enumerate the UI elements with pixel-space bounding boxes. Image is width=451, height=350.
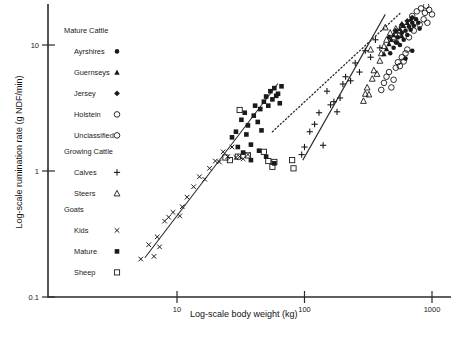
- marker-plus: [299, 151, 305, 157]
- marker-open-square: [291, 166, 296, 171]
- marker-open-circle: [386, 69, 392, 75]
- marker-cross: [152, 254, 157, 259]
- marker-filled-circle: [403, 28, 408, 33]
- marker-filled-circle: [396, 35, 401, 40]
- marker-filled-square: [259, 128, 264, 133]
- marker-open-circle: [378, 87, 384, 93]
- marker-plus: [311, 121, 317, 127]
- y-tick-label: 10: [31, 41, 39, 50]
- marker-cross: [213, 159, 218, 164]
- marker-filled-square: [276, 91, 281, 96]
- marker-plus: [320, 142, 326, 148]
- marker-filled-square: [115, 249, 120, 254]
- marker-filled-square: [257, 148, 262, 153]
- x-tick-label: 1000: [424, 305, 441, 314]
- marker-filled-square: [246, 123, 251, 128]
- chart-legend: Mature CattleAyrshiresGuernseysJerseyHol…: [64, 26, 120, 277]
- marker-filled-triangle: [114, 70, 119, 75]
- legend-label-guernseys: Guernseys: [74, 68, 110, 77]
- marker-cross: [138, 257, 143, 262]
- marker-open-triangle: [377, 58, 383, 64]
- marker-open-square: [237, 107, 242, 112]
- marker-plus: [337, 95, 343, 101]
- marker-open-circle: [389, 85, 395, 91]
- legend-label-calves: Calves: [74, 168, 97, 177]
- marker-filled-square: [234, 129, 239, 134]
- marker-filled-square: [266, 103, 271, 108]
- marker-open-triangle: [382, 24, 388, 30]
- marker-open-square: [114, 270, 119, 275]
- marker-cross: [146, 242, 151, 247]
- marker-filled-circle: [388, 51, 393, 56]
- marker-plus: [114, 169, 120, 175]
- series-steers: [361, 22, 405, 104]
- marker-filled-square: [264, 94, 269, 99]
- marker-filled-square: [272, 86, 277, 91]
- legend-heading: Goats: [64, 205, 84, 214]
- marker-cross: [191, 184, 196, 189]
- marker-cross: [207, 166, 212, 171]
- legend-label-ayrshires: Ayrshires: [74, 47, 105, 56]
- marker-open-square: [245, 153, 250, 158]
- marker-plus: [316, 110, 322, 116]
- axis-ticks: [42, 45, 432, 303]
- marker-filled-square: [253, 103, 258, 108]
- marker-cross: [202, 177, 207, 182]
- marker-filled-circle: [115, 49, 120, 54]
- marker-open-circle: [114, 112, 120, 118]
- data-points: [138, 3, 434, 261]
- legend-label-kids: Kids: [74, 226, 89, 235]
- marker-cross: [221, 150, 226, 155]
- marker-cross: [177, 214, 182, 219]
- marker-filled-square: [277, 101, 282, 106]
- legend-label-holstein: Holstein: [74, 110, 101, 119]
- marker-cross: [155, 235, 160, 240]
- chart-figure: 1010010000.1110 Log-scale body weight (k…: [0, 0, 451, 350]
- regression-line-cattle-regression: [303, 14, 385, 160]
- marker-cross: [162, 219, 167, 224]
- marker-open-square: [290, 158, 295, 163]
- legend-label-mature: Mature: [74, 247, 97, 256]
- x-tick-label: 100: [298, 305, 311, 314]
- marker-filled-square: [268, 89, 273, 94]
- x-tick-label: 10: [173, 305, 181, 314]
- marker-cross: [185, 195, 190, 200]
- legend-label-unclassified: Unclassified: [74, 131, 114, 140]
- marker-filled-square: [251, 113, 256, 118]
- marker-filled-square: [244, 132, 249, 137]
- marker-filled-square: [249, 142, 254, 147]
- regression-lines: [145, 13, 400, 257]
- x-axis-title: Log-scale body weight (kg): [190, 309, 298, 319]
- marker-open-square: [266, 158, 271, 163]
- marker-filled-square: [236, 145, 241, 150]
- marker-plus: [331, 99, 337, 105]
- marker-open-circle: [114, 133, 120, 139]
- marker-open-triangle: [114, 190, 120, 196]
- marker-plus: [301, 144, 307, 150]
- marker-plus: [356, 69, 362, 75]
- regression-line-combined-regression: [272, 13, 400, 131]
- marker-plus: [377, 45, 383, 51]
- marker-cross: [166, 215, 171, 220]
- marker-open-circle: [429, 12, 435, 18]
- marker-filled-square: [241, 150, 246, 155]
- legend-heading: Mature Cattle: [64, 26, 108, 35]
- marker-plus: [307, 129, 313, 135]
- marker-open-triangle: [374, 71, 380, 77]
- marker-plus: [352, 60, 358, 66]
- marker-filled-square: [279, 84, 284, 89]
- marker-open-triangle: [361, 98, 367, 104]
- marker-open-triangle: [387, 30, 393, 36]
- marker-open-circle: [391, 77, 397, 83]
- marker-open-circle: [425, 20, 431, 26]
- y-tick-label: 0.1: [29, 293, 39, 302]
- scatter-plot-svg: 1010010000.1110 Log-scale body weight (k…: [0, 0, 451, 350]
- marker-open-triangle: [368, 46, 374, 52]
- marker-filled-diamond: [114, 91, 120, 97]
- marker-filled-circle: [410, 48, 415, 53]
- legend-label-sheep: Sheep: [74, 268, 95, 277]
- marker-plus: [368, 54, 374, 60]
- marker-open-circle: [381, 80, 387, 86]
- marker-plus: [342, 74, 348, 80]
- marker-filled-square: [239, 117, 244, 122]
